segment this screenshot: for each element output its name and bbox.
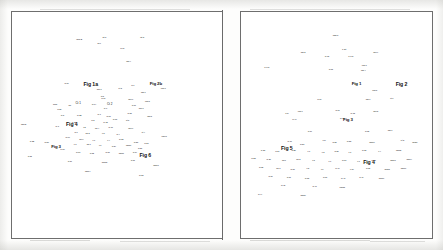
data-point-label: c 6 (329, 160, 332, 162)
data-point-label: c 1 (93, 139, 96, 141)
data-point-label: fo 6 (104, 107, 107, 109)
data-point-label: fo 25 (134, 141, 138, 143)
data-point-label: fo 42 (281, 184, 285, 186)
data-point-label: fo 27 (362, 149, 366, 151)
data-point-label: fo 23 (261, 149, 265, 151)
data-point-label: obs 5 (372, 89, 377, 91)
data-point-label: fo 38 (305, 177, 309, 179)
data-point-label: obs12 (396, 149, 401, 151)
figure-callout-label: Fig 4 (66, 122, 78, 127)
data-point-label: fo 14 (292, 118, 296, 120)
data-point-label: fo 12 (103, 121, 107, 123)
data-point-label: fo 08 (329, 67, 333, 69)
data-point-label: fo 19 (288, 140, 292, 142)
data-point-label: c 7 (357, 160, 360, 162)
data-point-label: fo 32 (259, 166, 263, 168)
data-point-label: pt 3 (140, 37, 144, 40)
data-point-label: fo 17 (109, 126, 113, 128)
data-point-label: obs41 (162, 135, 167, 137)
data-point-label: fo 16 (64, 82, 68, 84)
data-point-label: obs 7 (141, 91, 146, 93)
data-point-label: obs 8 (147, 115, 152, 117)
data-point-label: fo 44 (258, 193, 262, 195)
figure-callout-label: Fig 1a (84, 83, 98, 88)
data-point-label: fo 24 (112, 145, 116, 147)
data-point-label: fig 0 (97, 42, 101, 44)
data-point-label: fo 36 (268, 175, 272, 177)
data-point-label: c 9 (321, 168, 324, 170)
data-point-label: obs15 (384, 168, 389, 170)
data-point-label: fo 4 (116, 133, 119, 135)
data-point-label: fo 20 (300, 143, 304, 145)
data-point-label: obs 0 (128, 127, 133, 129)
data-point-label: 1 c 06 (264, 66, 269, 68)
data-point-label: c 5 (312, 159, 315, 161)
figure-callout-label: Fig 6 (140, 153, 152, 158)
data-point-label: c 1 (308, 150, 311, 152)
data-point-label: wk 2 (86, 132, 90, 134)
data-point-label: fo 39 (323, 176, 327, 178)
data-point-label: fo 43 (312, 185, 316, 187)
data-point-label: fo 20 (57, 108, 61, 110)
data-point-label: fo 21 (332, 141, 336, 143)
data-point-label: fo 29 (45, 141, 49, 143)
data-point-label: fo 36 (68, 160, 72, 162)
data-point-label: 1 m (285, 112, 288, 114)
data-point-label: Ct 2 (107, 102, 112, 105)
data-point-label: c 4 (378, 150, 381, 152)
data-point-label: 1 cat (342, 48, 346, 50)
data-point-label: c 8 (307, 167, 310, 169)
data-point-label: fo 7 (98, 113, 101, 115)
data-point-label: fo 22 (347, 140, 351, 142)
data-point-label: obs 2 (301, 51, 306, 53)
data-point-label: fo 28 (30, 140, 34, 142)
data-point-label: obs12 (102, 161, 107, 163)
data-point-label: obs14 (85, 170, 90, 172)
data-point-label: pt 5 (126, 119, 129, 121)
data-point-label: fo 26 (334, 150, 338, 152)
data-point-label: pt 1 (390, 97, 393, 99)
data-point-label: c 3 (349, 151, 352, 153)
data-point-label: fo 18 (365, 130, 369, 132)
data-point-label: obs 6 (366, 98, 371, 100)
data-point-label: wk 1 (79, 138, 83, 140)
data-point-label: fo 28 (251, 157, 255, 159)
data-point-label: fo 37 (131, 159, 135, 161)
data-point-label: 1 fo (323, 139, 326, 141)
data-point-label: fo 31 (76, 151, 80, 153)
data-point-label: wk 3 (87, 143, 91, 145)
data-point-label: fresh (53, 102, 57, 104)
data-point-label: · (106, 184, 107, 186)
data-point-label: c 2 (322, 151, 325, 153)
data-point-label: fo 14 (92, 102, 96, 104)
data-point-label: fo 3 (56, 125, 59, 127)
data-point-label: fo 1 (74, 131, 77, 133)
data-point-label: obs 9 (388, 128, 393, 130)
data-point-label: fo 23 (119, 138, 123, 140)
data-point-label: c 10 (350, 168, 354, 170)
data-point-label: fo 11 (335, 109, 339, 111)
data-point-label: obs11 (119, 152, 124, 154)
data-point-label: obs 7 (298, 110, 303, 112)
data-point-label: obs 3 (161, 87, 166, 89)
data-point-label: fo 27 (144, 142, 148, 144)
data-point-label: fo 10 (317, 98, 321, 100)
data-point-label: wk 4 (95, 127, 99, 129)
data-point-label: fo 2 (91, 119, 94, 121)
data-point-label: c 4 (107, 139, 110, 141)
data-point-label: wk 2 (296, 158, 300, 160)
data-point-label: obs16 (401, 167, 406, 169)
data-point-label: fo 33 (290, 168, 294, 170)
data-point-label: obs 1 (333, 34, 339, 37)
data-point-label: fo 32 (90, 152, 94, 154)
data-point-label: wk (69, 104, 71, 106)
data-point-label: fo 10 (66, 136, 70, 138)
data-point-label: pt 2 (401, 139, 404, 141)
data-point-label: fo 13 (106, 115, 110, 117)
data-point-label: pt 2 (119, 87, 122, 89)
data-point-label: wk 1 (282, 159, 286, 161)
data-point-label: obs 6 (139, 107, 144, 109)
figure-callout-label: Fig 4 (363, 161, 375, 166)
figure-callout-label: Fig 3 (51, 145, 61, 149)
right-plot-panel: obs 1obs 21 catobs efo 051 c 061 c 06fo … (240, 11, 433, 239)
